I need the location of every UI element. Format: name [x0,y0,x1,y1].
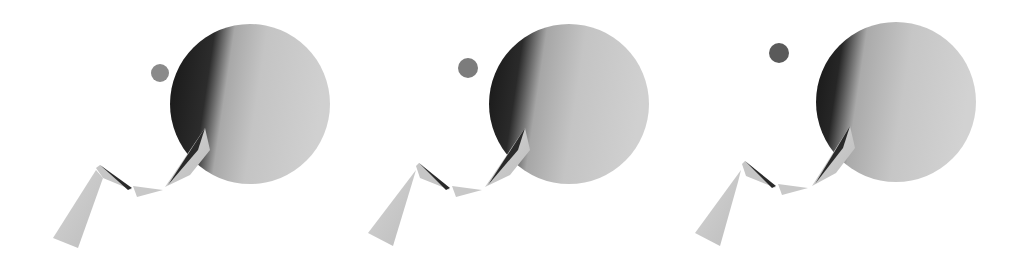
small-ball [151,64,169,82]
render-stage [0,0,1026,265]
scene-canvas [0,0,1026,265]
panel-2 [368,24,649,246]
panel-1 [53,24,330,248]
small-ball [458,58,478,78]
small-ball [769,43,789,63]
panel-3 [695,22,976,246]
